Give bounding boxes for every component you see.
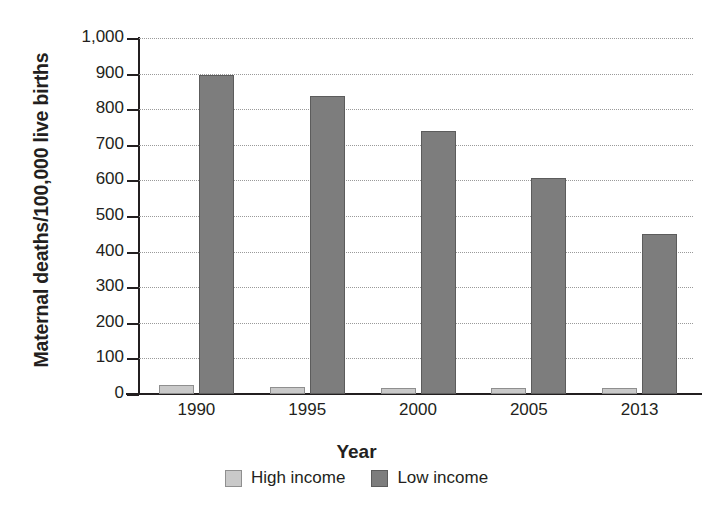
y-axis-tick [127,180,139,182]
y-axis-tick-label: 0 [56,383,124,403]
y-axis-tick-label: 100 [56,347,124,367]
y-axis-tick-label: 900 [56,63,124,83]
bar-high-income-2005 [491,388,526,394]
plot-area [139,38,693,394]
bar-high-income-2013 [602,388,637,394]
y-axis-tick-label: 800 [56,98,124,118]
y-axis-tick-label: 500 [56,205,124,225]
y-axis-tick [127,358,139,360]
legend-entry-low-income[interactable]: Low income [371,468,488,488]
y-axis-tick [127,109,139,111]
bar-high-income-2000 [381,388,416,394]
y-axis-tick [127,38,139,40]
bar-low-income-2000 [421,131,456,394]
legend-label: Low income [397,468,488,488]
legend-swatch-icon [225,470,242,487]
y-axis-tick-label: 400 [56,241,124,261]
bar-low-income-2013 [642,234,677,394]
bar-low-income-1995 [310,96,345,394]
y-axis-tick [127,74,139,76]
gridline [139,38,693,39]
y-axis-tick [127,287,139,289]
x-axis-tick-label-2000: 2000 [399,400,437,420]
x-axis-tick-label-2013: 2013 [621,400,659,420]
y-axis-tick [127,394,139,396]
x-axis-title: Year [0,441,713,463]
legend-swatch-icon [371,470,388,487]
y-axis-tick [127,145,139,147]
legend-entry-high-income[interactable]: High income [225,468,346,488]
bar-high-income-1995 [270,387,305,394]
chart-legend: High incomeLow income [0,468,713,488]
bar-low-income-2005 [531,178,566,394]
y-axis-tick-label: 300 [56,276,124,296]
bar-high-income-1990 [159,385,194,394]
y-axis-tick [127,323,139,325]
y-axis-tick-label: 200 [56,312,124,332]
x-axis-tick-label-2005: 2005 [510,400,548,420]
y-axis-tick [127,252,139,254]
y-axis-tick-labels: 01002003004005006007008009001,000 [52,38,124,394]
y-axis-tick [127,216,139,218]
maternal-mortality-bar-chart: Maternal deaths/100,000 live births 0100… [0,0,713,518]
legend-label: High income [251,468,346,488]
bar-low-income-1990 [199,75,234,394]
y-axis-tick-label: 1,000 [56,27,124,47]
y-axis-tick-label: 700 [56,134,124,154]
y-axis-tick-label: 600 [56,169,124,189]
x-axis-tick-label-1990: 1990 [177,400,215,420]
x-axis-tick-label-1995: 1995 [288,400,326,420]
